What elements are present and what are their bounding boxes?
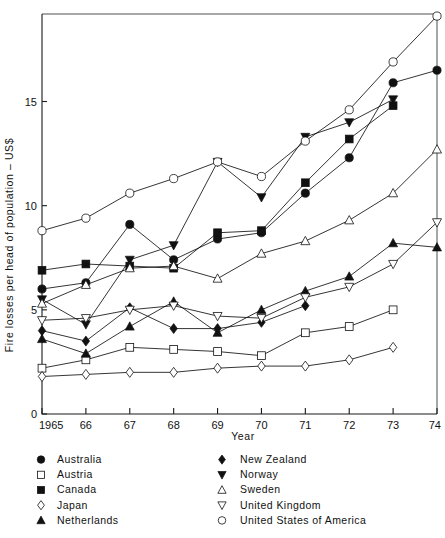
data-point-open-circle (301, 137, 309, 145)
y-tick-label: 10 (25, 200, 37, 212)
legend-label: New Zealand (240, 453, 307, 465)
data-point-open-square (214, 348, 222, 356)
data-point-open-square (301, 329, 309, 337)
y-tick-label: 0 (31, 408, 37, 420)
data-point-filled-square (345, 135, 353, 143)
legend-label: Canada (57, 483, 96, 495)
data-point-filled-square (38, 266, 46, 274)
data-point-open-circle (126, 189, 134, 197)
x-tick-label: 74 (429, 419, 441, 431)
x-tick-label: 71 (299, 419, 311, 431)
data-point-open-square (345, 323, 353, 331)
data-point-open-circle (389, 58, 397, 66)
legend-label: Austria (57, 468, 93, 480)
y-tick-label: 15 (25, 96, 37, 108)
x-tick-label: 1965 (39, 419, 63, 431)
legend-label: Netherlands (57, 514, 119, 526)
data-point-open-circle (433, 12, 441, 20)
data-point-filled-square (301, 179, 309, 187)
legend-item-united-states-of-america[interactable]: United States of America (218, 514, 366, 526)
x-tick-label: 70 (255, 419, 267, 431)
data-point-open-circle (170, 174, 178, 182)
data-point-open-square (126, 343, 134, 351)
x-tick-label: 68 (168, 419, 180, 431)
data-point-filled-circle (37, 456, 45, 464)
data-point-filled-square (258, 227, 266, 235)
data-point-open-square (37, 471, 44, 478)
data-point-filled-square (82, 260, 90, 268)
data-point-filled-circle (301, 189, 309, 197)
data-point-filled-square (37, 486, 44, 493)
y-axis-title: Fire losses per head of population – US$ (3, 138, 15, 352)
data-point-open-circle (213, 158, 221, 166)
data-point-open-circle (257, 172, 265, 180)
data-point-open-square (258, 352, 266, 360)
x-tick-label: 72 (343, 419, 355, 431)
chart-figure: 051015 1965666768697071727374 Fire losse… (0, 0, 445, 538)
x-tick-label: 73 (387, 419, 399, 431)
data-point-filled-circle (433, 66, 441, 74)
data-point-filled-circle (345, 154, 353, 162)
legend-label: Sweden (240, 483, 281, 495)
data-point-open-circle (218, 517, 226, 525)
fire-losses-chart: 051015 1965666768697071727374 Fire losse… (0, 0, 445, 538)
legend-label: United Kingdom (240, 499, 321, 511)
data-point-open-circle (82, 214, 90, 222)
legend-label: Australia (57, 453, 102, 465)
x-tick-label: 67 (124, 419, 136, 431)
data-point-open-square (389, 306, 397, 314)
data-point-open-circle (38, 227, 46, 235)
data-point-filled-square (214, 229, 222, 237)
x-axis-title: Year (231, 430, 255, 442)
data-point-filled-circle (38, 285, 46, 293)
data-point-open-circle (345, 106, 353, 114)
y-tick-label: 5 (31, 304, 37, 316)
x-tick-label: 69 (211, 419, 223, 431)
legend-label: United States of America (240, 514, 366, 526)
data-point-filled-circle (389, 79, 397, 87)
legend-label: Japan (57, 499, 88, 511)
data-point-filled-circle (126, 220, 134, 228)
data-point-open-square (170, 346, 178, 354)
x-tick-label: 66 (80, 419, 92, 431)
legend-label: Norway (240, 468, 279, 480)
